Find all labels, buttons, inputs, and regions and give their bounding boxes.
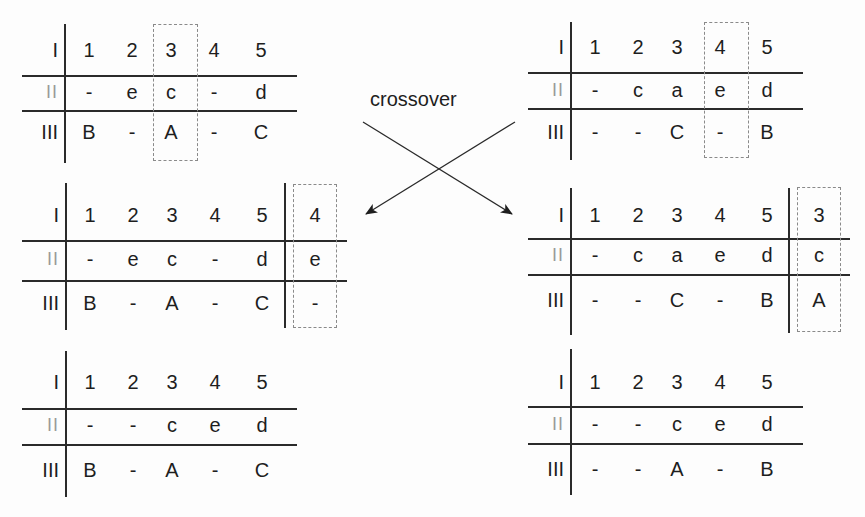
arrow-down-left — [366, 122, 515, 214]
arrow-down-right — [363, 122, 512, 214]
crossover-diagram: IIIIII12345-ec-dB-A-CIIIIII12345-caed--C… — [0, 0, 865, 517]
crossover-arrows — [0, 0, 865, 517]
